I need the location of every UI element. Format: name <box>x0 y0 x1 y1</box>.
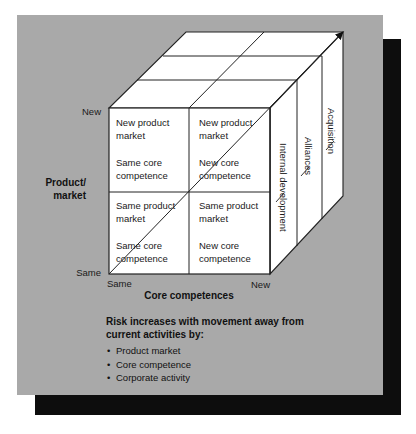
bullet-icon: • <box>107 358 110 372</box>
x-axis-title: Core competences <box>144 290 234 301</box>
y-axis-top-label: New <box>82 106 101 117</box>
svg-text:competence: competence <box>116 170 168 181</box>
svg-text:competence: competence <box>199 170 251 181</box>
y-axis-title-2: market <box>53 190 86 201</box>
svg-text:market: market <box>116 213 145 224</box>
risk-note: Risk increases with movement away from c… <box>106 316 306 385</box>
y-axis-title: Product/ <box>45 177 86 188</box>
svg-text:New core: New core <box>199 157 239 168</box>
svg-text:New product: New product <box>116 117 170 128</box>
svg-text:Same core: Same core <box>116 240 162 251</box>
svg-text:competence: competence <box>116 253 168 264</box>
label-alliances: Alliances <box>303 137 314 175</box>
bullet-icon: • <box>107 371 110 385</box>
x-axis-left-label: Same <box>107 278 132 289</box>
svg-text:market: market <box>116 130 145 141</box>
bullet-icon: • <box>107 344 110 358</box>
label-acquisition: Acquisition <box>326 108 337 154</box>
svg-text:Same product: Same product <box>199 200 259 211</box>
svg-text:market: market <box>199 213 228 224</box>
x-axis-right-label: New <box>251 279 270 290</box>
svg-text:competence: competence <box>199 253 251 264</box>
svg-text:New product: New product <box>199 117 253 128</box>
note-item: •Core competence <box>106 358 306 372</box>
svg-text:Same core: Same core <box>116 157 162 168</box>
label-internal-development: Internal development <box>278 143 289 232</box>
diagram-stage: New product market Same core competence … <box>0 0 416 434</box>
note-item: •Corporate activity <box>106 371 306 385</box>
note-title: Risk increases with movement away from c… <box>106 316 306 341</box>
note-list: •Product market •Core competence •Corpor… <box>106 344 306 385</box>
y-axis-bottom-label: Same <box>76 267 101 278</box>
svg-text:New core: New core <box>199 240 239 251</box>
svg-text:market: market <box>199 130 228 141</box>
note-item: •Product market <box>106 344 306 358</box>
svg-text:Same product: Same product <box>116 200 176 211</box>
